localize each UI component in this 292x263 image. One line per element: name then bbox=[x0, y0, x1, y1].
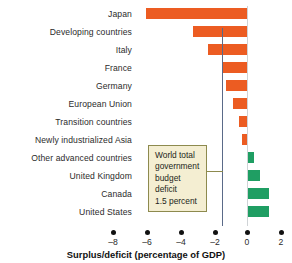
tick-label-minus4: –4 bbox=[176, 237, 186, 247]
tick-dot-minus8 bbox=[111, 230, 116, 235]
tick-label-plus2: 2 bbox=[279, 237, 284, 247]
bar-japan bbox=[146, 8, 247, 19]
plot-area: World total government budget deficit 1.… bbox=[0, 0, 292, 226]
tick-label-zero: 0 bbox=[245, 237, 250, 247]
bar-canada bbox=[248, 188, 269, 199]
bar-united-states bbox=[248, 206, 269, 217]
tick-label-minus2: –2 bbox=[210, 237, 220, 247]
tick-dot-minus2 bbox=[213, 230, 218, 235]
bar-newly-industrialized-asia bbox=[242, 134, 247, 145]
callout-line-4: 1.5 percent bbox=[155, 196, 201, 207]
tick-dot-zero bbox=[245, 230, 250, 235]
callout-line-1: World total bbox=[155, 150, 201, 161]
bar-other-advanced-countries bbox=[248, 152, 254, 163]
x-axis: –8 –6 –4 –2 0 2 Surplus/deficit (percent… bbox=[0, 226, 292, 263]
bar-united-kingdom bbox=[248, 170, 260, 181]
tick-dot-plus2 bbox=[279, 230, 284, 235]
bar-germany bbox=[226, 80, 247, 91]
world-total-reference-line bbox=[222, 28, 223, 226]
callout-line-3: budget deficit bbox=[155, 173, 201, 196]
callout-line-2: government bbox=[155, 161, 201, 172]
tick-dot-minus4 bbox=[179, 230, 184, 235]
x-axis-title: Surplus/deficit (percentage of GDP) bbox=[0, 249, 292, 260]
bar-transition-countries bbox=[239, 116, 247, 127]
tick-label-minus8: –8 bbox=[108, 237, 118, 247]
callout-leader-line bbox=[206, 171, 223, 172]
world-total-callout: World total government budget deficit 1.… bbox=[148, 145, 207, 212]
bar-developing-countries bbox=[193, 26, 247, 37]
chart-container: Japan Developing countries Italy France … bbox=[0, 0, 292, 263]
bar-france bbox=[222, 62, 247, 73]
bar-european-union bbox=[233, 98, 247, 109]
tick-label-minus6: –6 bbox=[142, 237, 152, 247]
tick-dot-minus6 bbox=[145, 230, 150, 235]
bar-italy bbox=[208, 44, 247, 55]
